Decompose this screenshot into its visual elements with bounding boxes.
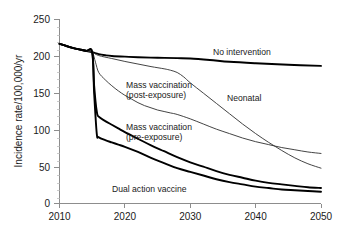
y-tick-label: 250: [33, 14, 50, 25]
x-tick-label: 2040: [244, 211, 267, 222]
x-tick-label: 2020: [114, 211, 137, 222]
x-tick-label: 2050: [310, 211, 333, 222]
y-tick-label: 50: [39, 162, 51, 173]
y-axis-title: Incidence rate/100,000/yr: [13, 54, 24, 168]
x-tick-label: 2010: [48, 211, 71, 222]
y-tick-label: 200: [33, 51, 50, 62]
series-label-mass-pre-l2: (pre-exposure): [126, 132, 182, 142]
y-tick-label: 100: [33, 125, 50, 136]
series-label-neonatal: Neonatal: [227, 93, 261, 103]
series-label-dual-action: Dual action vaccine: [112, 184, 187, 194]
x-tick-label: 2030: [179, 211, 202, 222]
y-tick-label: 0: [44, 198, 50, 209]
incidence-rate-line-chart: 250 200 150 100 50 0 2010 2020 2030 2040…: [0, 0, 337, 244]
series-label-mass-pre-l1: Mass vaccination: [126, 122, 192, 132]
series-label-mass-post-l1: Mass vaccination: [126, 80, 192, 90]
series-label-mass-post-l2: (post-exposure): [126, 90, 186, 100]
y-tick-label: 150: [33, 88, 50, 99]
chart-figure: 250 200 150 100 50 0 2010 2020 2030 2040…: [0, 0, 337, 244]
series-label-no-intervention: No intervention: [213, 47, 271, 57]
